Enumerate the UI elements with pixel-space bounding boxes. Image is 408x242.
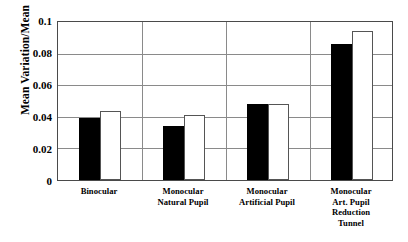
- y-tick-label: 0.02: [18, 144, 52, 155]
- plot-area: [57, 21, 393, 181]
- bar-series-2: [184, 115, 205, 180]
- x-axis-category-labels: Binocular MonocularNatural Pupil Monocul…: [57, 186, 393, 242]
- bar-group: [142, 22, 226, 180]
- bar-series-1: [163, 126, 184, 180]
- bar-series-1: [247, 104, 268, 180]
- y-tick-label: 0.06: [18, 80, 52, 91]
- category-label-line: Artificial Pupil: [225, 197, 309, 208]
- bar-series-2: [352, 31, 373, 180]
- bar-group: [58, 22, 142, 180]
- category-label-line: Monocular: [141, 186, 225, 197]
- category-label-line: Art. Pupil: [309, 197, 393, 208]
- bar-series-2: [100, 111, 121, 180]
- bar-group: [226, 22, 310, 180]
- category-label-line: Monocular: [225, 186, 309, 197]
- bars-row: [58, 22, 142, 180]
- y-tick-label: 0: [18, 176, 52, 187]
- category-label-line: Natural Pupil: [141, 197, 225, 208]
- bar-group: [310, 22, 394, 180]
- category-label-line: Binocular: [57, 186, 141, 197]
- bars-row: [142, 22, 226, 180]
- bar-series-1: [79, 118, 100, 180]
- y-axis-tick-labels: 0.1 0.08 0.06 0.04 0.02 0: [18, 0, 52, 242]
- bar-chart-figure: Mean Variation/Mean 0.1 0.08 0.06 0.04 0…: [0, 0, 408, 242]
- bar-series-1: [331, 44, 352, 180]
- category-label: Binocular: [57, 186, 141, 197]
- category-label-line: Reduction: [309, 207, 393, 218]
- y-tick-label: 0.1: [18, 16, 52, 27]
- category-label-line: Tunnel: [309, 218, 393, 229]
- bar-series-2: [268, 104, 289, 180]
- y-tick-label: 0.08: [18, 48, 52, 59]
- category-label-line: Monocular: [309, 186, 393, 197]
- bars-row: [310, 22, 394, 180]
- y-tick-label: 0.04: [18, 112, 52, 123]
- category-label: MonocularNatural Pupil: [141, 186, 225, 207]
- bars-row: [226, 22, 310, 180]
- cut-off-page-header: [283, 0, 405, 5]
- category-label: MonocularArtificial Pupil: [225, 186, 309, 207]
- category-label: MonocularArt. PupilReductionTunnel: [309, 186, 393, 228]
